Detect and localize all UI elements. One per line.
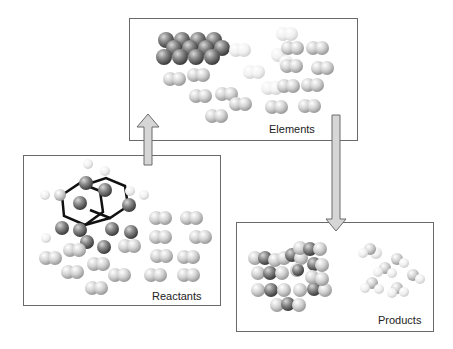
carbon-lattice — [156, 32, 230, 65]
elements-panel — [130, 19, 358, 141]
reactants-panel — [24, 156, 221, 306]
diagram-canvas — [0, 0, 453, 349]
reactants-label: Reactants — [152, 290, 202, 302]
elements-label: Elements — [269, 123, 315, 135]
products-label: Products — [378, 314, 421, 326]
